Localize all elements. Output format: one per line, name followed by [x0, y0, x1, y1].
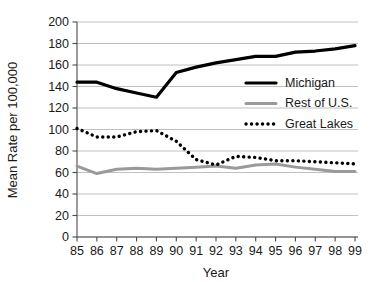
x-tick-label-89: 89 — [149, 244, 163, 258]
y-axis-title: Mean Rate per 100,000 — [5, 62, 20, 199]
y-tick-label-60: 60 — [55, 166, 69, 180]
legend-label-michigan: Michigan — [285, 76, 335, 90]
chart-legend: MichiganRest of U.S.Great Lakes — [246, 76, 353, 131]
y-tick-label-40: 40 — [55, 187, 69, 201]
chart-figure: 020406080100120140160180200 858687888990… — [0, 0, 374, 282]
y-tick-label-120: 120 — [48, 101, 69, 115]
x-axis-ticks: 858687888990919293949596979899 — [70, 237, 362, 258]
x-tick-label-87: 87 — [110, 244, 124, 258]
x-tick-label-95: 95 — [269, 244, 283, 258]
y-tick-label-80: 80 — [55, 144, 69, 158]
x-tick-label-92: 92 — [209, 244, 223, 258]
y-tick-label-20: 20 — [55, 209, 69, 223]
y-tick-label-180: 180 — [48, 37, 69, 51]
line-chart: 020406080100120140160180200 858687888990… — [0, 0, 374, 282]
x-tick-label-97: 97 — [308, 244, 322, 258]
y-tick-label-0: 0 — [62, 230, 69, 244]
x-tick-label-88: 88 — [130, 244, 144, 258]
y-axis-ticks: 020406080100120140160180200 — [48, 15, 77, 244]
x-tick-label-96: 96 — [288, 244, 302, 258]
x-axis-title: Year — [203, 265, 230, 280]
x-tick-label-93: 93 — [229, 244, 243, 258]
x-tick-label-91: 91 — [189, 244, 203, 258]
y-tick-label-160: 160 — [48, 58, 69, 72]
y-tick-label-200: 200 — [48, 15, 69, 29]
legend-label-rest-of-u-s: Rest of U.S. — [285, 96, 352, 110]
x-tick-label-94: 94 — [249, 244, 263, 258]
x-tick-label-99: 99 — [348, 244, 362, 258]
x-tick-label-98: 98 — [328, 244, 342, 258]
series-line-great-lakes — [77, 128, 355, 165]
x-tick-label-85: 85 — [70, 244, 84, 258]
legend-label-great-lakes: Great Lakes — [285, 117, 353, 131]
y-tick-label-100: 100 — [48, 123, 69, 137]
x-tick-label-86: 86 — [90, 244, 104, 258]
y-tick-label-140: 140 — [48, 80, 69, 94]
x-tick-label-90: 90 — [169, 244, 183, 258]
